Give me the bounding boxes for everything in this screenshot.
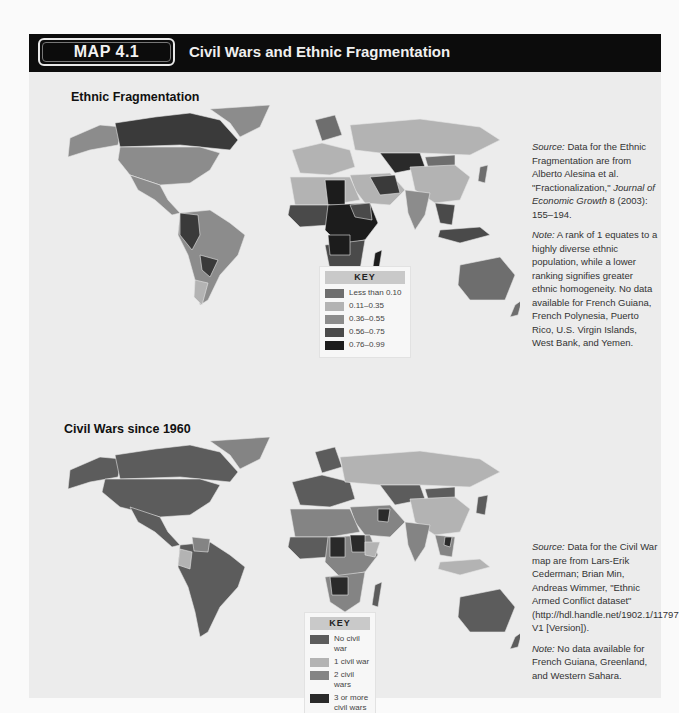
key-swatch <box>310 694 329 703</box>
key-swatch <box>310 658 329 667</box>
key-item: 3 or more civil wars <box>310 693 370 713</box>
figure-header: MAP 4.1 Civil Wars and Ethnic Fragmentat… <box>29 34 661 72</box>
key-item: 0.36–0.55 <box>325 314 405 324</box>
key-swatch <box>325 315 344 324</box>
key-item: No civil war <box>310 634 370 654</box>
civil-wars-key: KEY No civil war 1 civil war 2 civil war… <box>304 612 376 713</box>
key-swatch <box>310 635 329 644</box>
key-heading: KEY <box>310 617 370 630</box>
key-swatch <box>325 328 344 337</box>
key-swatch <box>325 289 344 298</box>
ethnic-fragmentation-notes: Source: Data for the Ethnic Fragmentatio… <box>532 140 660 357</box>
note-text: Note: No data available for French Guian… <box>532 642 660 683</box>
key-item: 2 civil wars <box>310 670 370 690</box>
map-number-label: MAP 4.1 <box>74 43 139 61</box>
note-text: Note: A rank of 1 equates to a highly di… <box>532 228 660 350</box>
key-swatch <box>310 671 329 680</box>
figure-title: Civil Wars and Ethnic Fragmentation <box>189 43 450 60</box>
key-item: 0.56–0.75 <box>325 327 405 337</box>
key-swatch <box>325 302 344 311</box>
civil-wars-notes: Source: Data for the Civil War map are f… <box>532 540 660 689</box>
civil-wars-map <box>60 437 520 677</box>
key-item: 0.11–0.35 <box>325 301 405 311</box>
ethnic-fragmentation-map <box>60 105 520 345</box>
key-item: Less than 0.10 <box>325 288 405 298</box>
civil-wars-title: Civil Wars since 1960 <box>64 422 191 436</box>
source-citation: Source: Data for the Ethnic Fragmentatio… <box>532 140 660 221</box>
source-citation: Source: Data for the Civil War map are f… <box>532 540 660 635</box>
key-item: 1 civil war <box>310 657 370 667</box>
key-item: 0.76–0.99 <box>325 340 405 350</box>
key-heading: KEY <box>325 271 405 284</box>
ethnic-fragmentation-title: Ethnic Fragmentation <box>71 90 199 104</box>
map-number-badge: MAP 4.1 <box>38 38 175 66</box>
key-swatch <box>325 341 344 350</box>
ethnic-fragmentation-key: KEY Less than 0.10 0.11–0.35 0.36–0.55 0… <box>319 266 411 358</box>
